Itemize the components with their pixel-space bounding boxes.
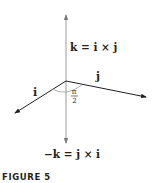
figure-caption: FIGURE 5 (2, 172, 51, 182)
two-label: 2 (72, 97, 76, 105)
i-vector (15, 81, 66, 113)
pi-label: π (72, 88, 77, 96)
j-vector (66, 81, 146, 97)
neg-k-equals-j-cross-i-label: −k = j × i (44, 148, 100, 160)
k-equals-i-cross-j-label: k = i × j (70, 41, 117, 53)
i-label: i (33, 86, 37, 99)
cross-product-diagram: k = i × j j i π 2 −k = j × i FIGURE 5 (0, 0, 153, 183)
angle-arc (52, 85, 82, 92)
j-label: j (95, 70, 100, 83)
